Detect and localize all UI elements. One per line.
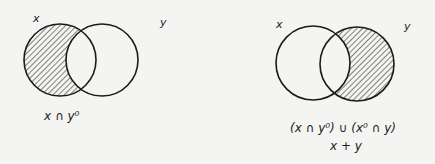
label-y: y bbox=[160, 16, 167, 29]
label-x: x bbox=[276, 18, 283, 31]
shaded-region-y-only bbox=[315, 22, 400, 107]
caption-right-line1: (x ∩ y⁰) ∪ (x⁰ ∩ y) bbox=[290, 121, 396, 135]
label-y: y bbox=[404, 20, 411, 33]
venn-diagrams bbox=[0, 0, 435, 164]
caption-right-line2: x + y bbox=[330, 139, 362, 153]
label-x: x bbox=[33, 12, 40, 25]
right-venn bbox=[276, 22, 400, 107]
left-venn bbox=[20, 20, 138, 100]
shaded-region-x-only bbox=[20, 20, 100, 100]
caption-left: x ∩ y⁰ bbox=[44, 109, 79, 123]
